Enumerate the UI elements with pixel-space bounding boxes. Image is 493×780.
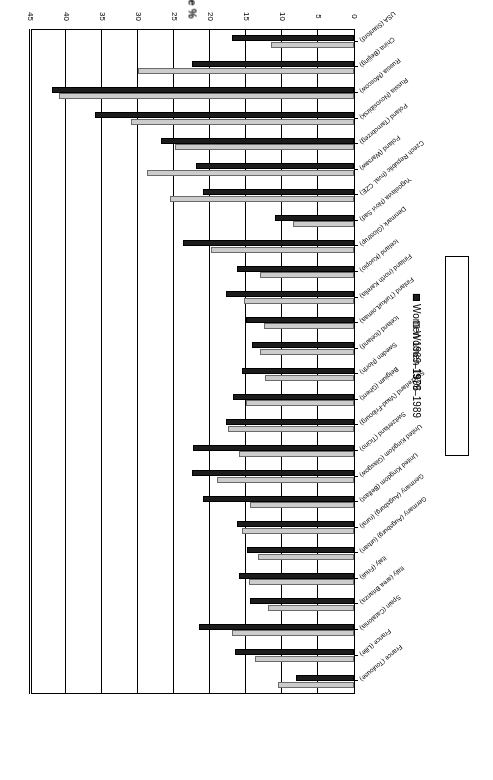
bar-group (30, 617, 354, 643)
bar-group (30, 55, 354, 81)
bar (232, 630, 354, 636)
category-tick (354, 92, 358, 93)
bar (239, 573, 354, 579)
bar-group (30, 157, 354, 183)
value-tick-label: 10 (279, 6, 288, 28)
bar (255, 656, 354, 662)
bar (242, 368, 354, 374)
category-tick (354, 194, 358, 195)
category-tick (354, 655, 358, 656)
value-tick-label: 15 (243, 6, 252, 28)
bar-group (30, 438, 354, 464)
bar (260, 272, 354, 278)
bar-group (30, 566, 354, 592)
legend: Women 1979–1989Women 1969–1996 (445, 257, 469, 457)
bar (226, 419, 354, 425)
bar (250, 502, 354, 508)
bar (265, 375, 354, 381)
bar (192, 61, 354, 67)
bar-group (30, 208, 354, 234)
category-tick (354, 399, 358, 400)
category-label: Italy (Friuli) (359, 555, 388, 581)
legend-swatch-icon (413, 294, 420, 301)
category-label: United Kingdom (Belfast) (359, 452, 420, 504)
category-tick (354, 450, 358, 451)
value-tick-label: 25 (171, 6, 180, 28)
bar (260, 349, 354, 355)
bar (183, 240, 354, 246)
category-tick (354, 527, 358, 528)
bar (244, 298, 354, 304)
category-tick (354, 348, 358, 349)
bar (237, 521, 354, 527)
bar-group (30, 80, 354, 106)
bar (170, 196, 354, 202)
bar-group (30, 515, 354, 541)
bar (233, 394, 354, 400)
bar (211, 247, 354, 253)
bar (131, 119, 354, 125)
bar (268, 605, 354, 611)
bar (258, 554, 354, 560)
category-tick (354, 552, 358, 553)
bar (52, 87, 354, 93)
bar (278, 682, 354, 688)
bar (203, 189, 354, 195)
bar (175, 144, 354, 150)
category-tick (354, 501, 358, 502)
bar (242, 528, 354, 534)
bar (275, 215, 354, 221)
value-tick-label: 0 (351, 6, 360, 28)
category-tick (354, 245, 358, 246)
bar-group (30, 387, 354, 413)
category-tick (354, 271, 358, 272)
category-tick (354, 41, 358, 42)
bar (228, 426, 354, 432)
bar-group (30, 285, 354, 311)
bar (247, 547, 354, 553)
bar-group (30, 234, 354, 260)
value-axis-title: Prevalence % (187, 0, 199, 18)
bar-group (30, 464, 354, 490)
bar-group (30, 489, 354, 515)
bar-group (30, 29, 354, 55)
legend-label: Women 1969–1996 (411, 304, 422, 391)
bar-group (30, 131, 354, 157)
bar (59, 93, 354, 99)
bar-group (30, 592, 354, 618)
bar (138, 68, 354, 74)
bar-group (30, 362, 354, 388)
bar-group (30, 668, 354, 694)
bar (250, 598, 354, 604)
category-tick (354, 143, 358, 144)
bar (264, 323, 354, 329)
bar-group (30, 643, 354, 669)
bar (193, 445, 354, 451)
bar (95, 112, 354, 118)
bar (199, 624, 354, 630)
value-tick-label: 20 (207, 6, 216, 28)
category-tick (354, 169, 358, 170)
value-tick-label: 35 (99, 6, 108, 28)
bar-group (30, 413, 354, 439)
category-label: Yugoslavia (Novi Sad) (359, 176, 413, 223)
category-label: Finland (north Karelia) (359, 252, 413, 299)
category-tick (354, 629, 358, 630)
bar (196, 163, 354, 169)
category-label: Finland (Turku/Loimaa) (359, 276, 416, 325)
plot-area (30, 29, 355, 694)
category-tick (354, 424, 358, 425)
bar (237, 266, 354, 272)
bar (232, 36, 354, 42)
bar-group (30, 310, 354, 336)
bar (161, 138, 354, 144)
bar-group (30, 541, 354, 567)
rotated-figure-wrapper: 051015202530354045 Prevalence % Centre F… (0, 0, 493, 780)
category-tick (354, 118, 358, 119)
category-tick (354, 603, 358, 604)
category-tick (354, 476, 358, 477)
bar (192, 470, 354, 476)
category-tick (354, 297, 358, 298)
value-tick-label: 5 (315, 6, 324, 28)
category-tick (354, 578, 358, 579)
